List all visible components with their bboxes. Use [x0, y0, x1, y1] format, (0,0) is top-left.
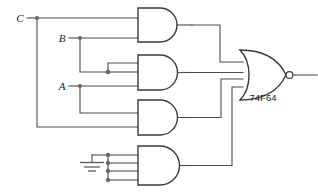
input-label-b: B	[59, 32, 66, 44]
junction-dot-gnd-2	[106, 161, 110, 165]
input-label-c: C	[16, 12, 24, 24]
junction-dot-gnd-4	[106, 178, 110, 182]
junction-dot-a	[78, 84, 82, 88]
wire-b-down	[80, 38, 108, 72]
junction-dot-gnd-3	[106, 169, 110, 173]
wire-b-to-gate2-top	[108, 63, 138, 72]
ground-symbol	[80, 155, 108, 171]
junction-dot-c	[35, 16, 39, 20]
wire-gate1-to-nor	[192, 25, 243, 62]
wire-a-to-gate3	[80, 86, 138, 113]
inversion-bubble-icon	[286, 72, 293, 79]
circuit-diagram: C B A	[0, 0, 318, 194]
and-gate-4	[138, 146, 192, 185]
junction-dot-gnd-1	[106, 153, 110, 157]
wire-gate3-to-nor	[192, 79, 243, 118]
and-gate-1	[138, 8, 192, 42]
and-gate-2	[138, 55, 192, 90]
wire-gate4-to-nor	[192, 87, 243, 166]
chip-label-74f64: 74F64	[250, 92, 277, 103]
and-gate-3	[138, 100, 192, 135]
junction-dot-b	[78, 36, 82, 40]
input-label-a: A	[58, 80, 66, 92]
nor-gate-output: 74F64	[240, 50, 317, 103]
circuit-canvas: C B A	[0, 0, 318, 194]
junction-dot-b-mid	[106, 70, 111, 75]
